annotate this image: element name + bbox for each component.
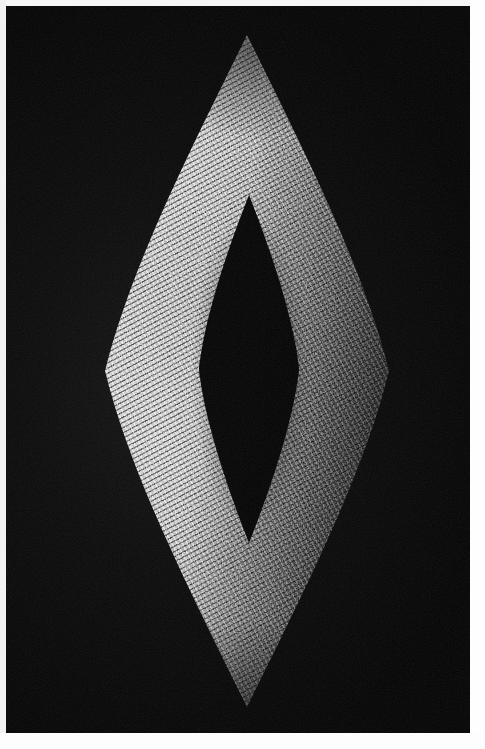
photograph xyxy=(6,6,470,733)
page-margin-bottom xyxy=(0,733,485,749)
page-margin-top xyxy=(0,0,485,6)
page-margin-right xyxy=(470,0,485,749)
scanned-page xyxy=(0,0,485,749)
page-margin-left xyxy=(0,0,6,749)
